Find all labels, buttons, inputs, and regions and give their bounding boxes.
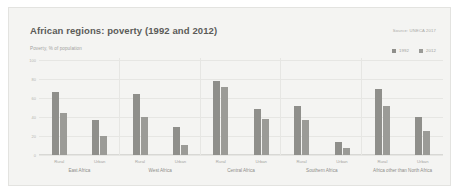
region-label: Southern Africa: [281, 168, 362, 173]
settlement-type-label: Rural: [362, 159, 402, 164]
region-label: East Africa: [39, 168, 120, 173]
settlement-type-label: Rural: [39, 159, 79, 164]
bar-subgroup: Urban: [79, 60, 119, 155]
bar[interactable]: [262, 119, 269, 155]
bar[interactable]: [100, 136, 107, 155]
bar[interactable]: [254, 109, 261, 155]
legend-item-2012[interactable]: 2012: [419, 48, 436, 53]
settlement-type-label: Urban: [79, 159, 119, 164]
chart-subtitle: Poverty, % of population: [30, 46, 82, 51]
legend-label: 2012: [426, 48, 436, 53]
bar[interactable]: [133, 94, 140, 155]
settlement-type-label: Urban: [160, 159, 200, 164]
y-axis-tick-label: 60: [32, 96, 36, 101]
bar-group: RuralUrbanAfrica other than North Africa: [362, 60, 443, 155]
bar[interactable]: [141, 117, 148, 155]
bar-subgroup: Rural: [120, 60, 160, 155]
settlement-type-label: Urban: [322, 159, 362, 164]
y-axis-tick-label: 40: [32, 115, 36, 120]
bar-subgroup: Rural: [39, 60, 79, 155]
bar[interactable]: [302, 120, 309, 155]
bar[interactable]: [221, 87, 228, 155]
bar[interactable]: [60, 113, 67, 155]
bar[interactable]: [375, 89, 382, 155]
y-axis-tick-label: 100: [29, 58, 36, 63]
square-swatch-icon: [392, 49, 396, 53]
gridline: 0: [39, 155, 443, 156]
bar-group: RuralUrbanCentral Africa: [201, 60, 282, 155]
settlement-type-label: Rural: [281, 159, 321, 164]
bar-group: RuralUrbanWest Africa: [120, 60, 201, 155]
bar[interactable]: [52, 92, 59, 155]
bar-group: RuralUrbanSouthern Africa: [281, 60, 362, 155]
bar[interactable]: [181, 145, 188, 155]
chart-legend: 1992 2012: [392, 48, 436, 53]
legend-label: 1992: [399, 48, 409, 53]
settlement-type-label: Urban: [241, 159, 281, 164]
bar[interactable]: [213, 81, 220, 155]
source-note: Source: UNECA 2017: [393, 28, 436, 33]
bar[interactable]: [335, 142, 342, 155]
bar-groups: RuralUrbanEast AfricaRuralUrbanWest Afri…: [39, 60, 443, 155]
bar[interactable]: [173, 127, 180, 156]
bar-group: RuralUrbanEast Africa: [39, 60, 120, 155]
legend-item-1992[interactable]: 1992: [392, 48, 409, 53]
chart-card: African regions: poverty (1992 and 2012)…: [8, 7, 451, 186]
bar[interactable]: [423, 131, 430, 155]
bar-subgroup: Urban: [160, 60, 200, 155]
y-axis-tick-label: 20: [32, 134, 36, 139]
settlement-type-label: Urban: [403, 159, 443, 164]
bar-subgroup: Urban: [403, 60, 443, 155]
settlement-type-label: Rural: [120, 159, 160, 164]
bar[interactable]: [343, 148, 350, 155]
bar[interactable]: [383, 106, 390, 155]
bar-subgroup: Rural: [362, 60, 402, 155]
bar[interactable]: [92, 120, 99, 155]
bar[interactable]: [294, 106, 301, 155]
square-swatch-icon: [419, 49, 423, 53]
settlement-type-label: Rural: [201, 159, 241, 164]
plot-area: 020406080100 RuralUrbanEast AfricaRuralU…: [39, 60, 443, 155]
bar[interactable]: [415, 117, 422, 155]
bar-subgroup: Urban: [322, 60, 362, 155]
region-label: Central Africa: [201, 168, 282, 173]
bar-subgroup: Rural: [281, 60, 321, 155]
y-axis-tick-label: 80: [32, 77, 36, 82]
region-label: Africa other than North Africa: [362, 168, 443, 173]
bar-subgroup: Urban: [241, 60, 281, 155]
y-axis-tick-label: 0: [34, 153, 36, 158]
page-title: African regions: poverty (1992 and 2012): [30, 25, 217, 36]
region-label: West Africa: [120, 168, 201, 173]
bar-subgroup: Rural: [201, 60, 241, 155]
